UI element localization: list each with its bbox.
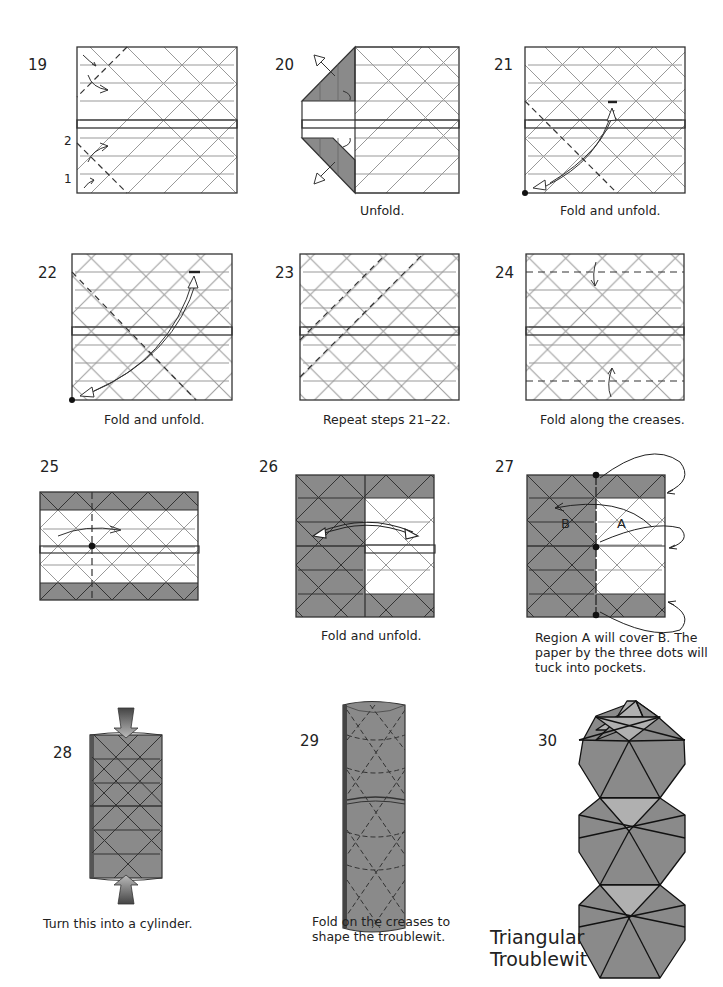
steps-22-24: 22 23 24 — [0, 240, 723, 440]
finished-model — [579, 701, 685, 978]
step-caption: Turn this into a cylinder. — [43, 916, 193, 931]
step-caption: Fold and unfold. — [560, 203, 661, 218]
step-19-diagram — [0, 0, 723, 230]
step-number: 21 — [494, 56, 513, 74]
steps-22-24-diagram — [0, 240, 723, 440]
step-caption: Fold on the creases to shape the trouble… — [312, 914, 452, 944]
region-label-b: B — [561, 516, 570, 531]
page-title: Triangular Troublewit — [490, 926, 570, 970]
push-arrow-bottom — [114, 875, 138, 904]
steps-28-30: 28 29 30 — [0, 690, 723, 987]
push-arrow-top — [114, 708, 138, 738]
step-caption: Region A will cover B. The paper by the … — [535, 630, 720, 675]
steps-25-27: 25 26 27 — [0, 450, 723, 680]
step-19: 19 2 1 — [0, 0, 723, 230]
region-label-a: A — [617, 516, 626, 531]
step-number: 20 — [275, 56, 294, 74]
step-caption: Unfold. — [360, 203, 405, 218]
step-caption: Fold and unfold. — [321, 628, 422, 643]
step-caption: Fold along the creases. — [540, 412, 685, 427]
step-caption: Fold and unfold. — [104, 412, 205, 427]
step-caption: Repeat steps 21–22. — [323, 412, 451, 427]
